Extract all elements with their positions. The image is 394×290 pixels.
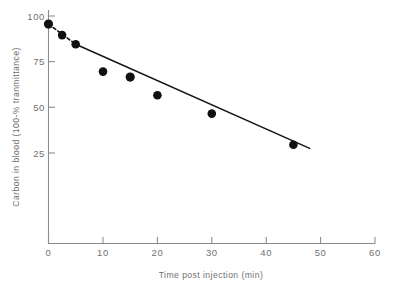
axes-group bbox=[48, 10, 375, 244]
y-tick-label-50: 50 bbox=[33, 102, 45, 113]
x-axis-tick-labels: 0 10 20 30 40 50 60 bbox=[46, 247, 381, 258]
y-axis-ticks bbox=[49, 16, 56, 153]
x-axis-ticks bbox=[49, 237, 376, 244]
chart-plot-area: 100 75 50 25 0 10 20 30 40 50 60 bbox=[0, 0, 394, 290]
data-point bbox=[153, 91, 162, 100]
x-tick-label-50: 50 bbox=[315, 247, 327, 258]
data-point bbox=[99, 67, 108, 76]
x-tick-label-30: 30 bbox=[206, 247, 218, 258]
data-point bbox=[208, 109, 217, 118]
x-tick-label-40: 40 bbox=[260, 247, 272, 258]
data-point bbox=[289, 140, 298, 149]
data-point bbox=[71, 40, 80, 49]
data-point-group bbox=[44, 20, 298, 150]
data-point bbox=[44, 20, 53, 29]
data-point bbox=[126, 73, 135, 82]
x-tick-label-20: 20 bbox=[152, 247, 164, 258]
data-point bbox=[58, 31, 67, 40]
fit-line-solid-segment bbox=[76, 44, 310, 148]
y-tick-label-75: 75 bbox=[33, 56, 45, 67]
y-tick-label-25: 25 bbox=[33, 148, 45, 159]
x-axis-title: Time post injection (min) bbox=[159, 270, 264, 280]
x-tick-label-0: 0 bbox=[46, 247, 52, 258]
x-tick-label-10: 10 bbox=[97, 247, 109, 258]
y-axis-tick-labels: 100 75 50 25 bbox=[27, 11, 45, 159]
fit-line-group bbox=[49, 24, 310, 148]
y-tick-label-100: 100 bbox=[27, 11, 45, 22]
chart-figure: 100 75 50 25 0 10 20 30 40 50 60 bbox=[0, 0, 394, 290]
y-axis-title: Carbon in blood (100-% tranmittance) bbox=[11, 47, 21, 207]
x-tick-label-60: 60 bbox=[369, 247, 381, 258]
